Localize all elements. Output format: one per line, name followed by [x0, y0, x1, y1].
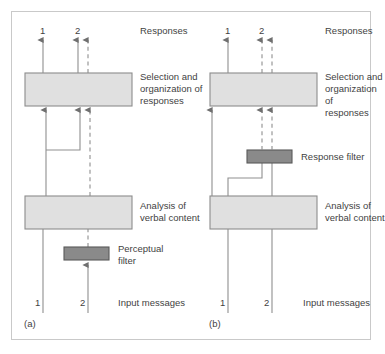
response-filter-label-b: Response filter — [301, 151, 364, 163]
panel-b-graphics — [210, 40, 317, 313]
selection-box-b — [210, 73, 317, 106]
selection-box-a — [25, 73, 132, 106]
panel-a-graphics — [25, 40, 132, 313]
responses-label-a: Responses — [140, 25, 188, 37]
responses-label-b: Responses — [325, 25, 373, 37]
top-channel-number-b-1: 1 — [225, 25, 230, 37]
top-channel-number-a-1: 1 — [40, 25, 45, 37]
analysis-box-label-b: Analysis of verbal content — [325, 200, 385, 224]
perceptual-filter-label-a: Perceptual filter — [118, 243, 163, 267]
bottom-channel-number-b-2: 2 — [264, 297, 269, 309]
bottom-channel-number-b-1: 1 — [220, 297, 225, 309]
input-messages-label-a: Input messages — [118, 297, 185, 309]
panel-caption-a: (a) — [24, 318, 36, 330]
perceptual-filter-box-a — [64, 247, 109, 260]
analysis-box-label-a: Analysis of verbal content — [140, 200, 200, 224]
analysis-box-a — [25, 196, 132, 229]
analysis-box-b — [210, 196, 317, 229]
top-channel-number-b-2: 2 — [259, 25, 264, 37]
panel-caption-b: (b) — [209, 318, 221, 330]
selection-box-label-a: Selection and organization of responses — [140, 71, 202, 107]
bottom-channel-number-a-2: 2 — [80, 297, 85, 309]
top-channel-number-a-2: 2 — [75, 25, 80, 37]
response-filter-box-b — [247, 150, 292, 163]
figure-root: Responses 1 2 Selection and organization… — [0, 0, 385, 354]
bottom-channel-number-a-1: 1 — [35, 297, 40, 309]
selection-box-label-b: Selection and organization of responses — [325, 71, 385, 119]
input-messages-label-b: Input messages — [303, 297, 370, 309]
line-a-analysis-branch — [46, 110, 80, 150]
line-b-analysis-branch — [228, 163, 262, 196]
